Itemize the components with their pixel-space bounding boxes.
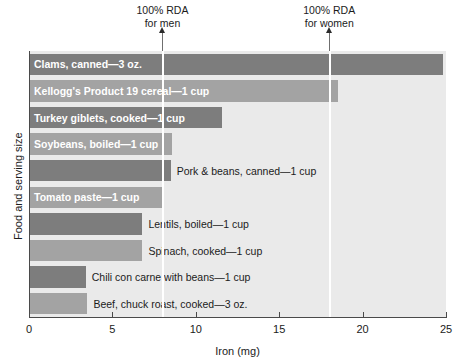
bar — [29, 266, 86, 287]
x-axis-title: Iron (mg) — [29, 345, 446, 357]
bar — [29, 160, 171, 181]
x-tick-label: 25 — [426, 323, 466, 335]
x-tick — [196, 312, 197, 318]
bar-label: Soybeans, boiled—1 cup — [34, 138, 158, 150]
x-tick — [446, 312, 447, 318]
x-tick-label: 5 — [92, 323, 132, 335]
arrow-head — [326, 27, 332, 33]
x-tick-label: 20 — [343, 323, 383, 335]
x-tick-label: 15 — [259, 323, 299, 335]
arrow-shaft — [329, 32, 330, 51]
bar-label: Kellogg's Product 19 cereal—1 cup — [34, 85, 209, 97]
rda-women-line1: 100% RDA — [269, 4, 389, 17]
arrow-shaft — [162, 32, 163, 51]
rda-men-line1: 100% RDA — [102, 4, 222, 17]
rda-reference-line — [329, 51, 331, 317]
y-axis-title: Food and serving size — [12, 132, 24, 240]
bar — [29, 213, 142, 234]
iron-content-bar-chart: 100% RDA for men 100% RDA for women Clam… — [0, 0, 476, 364]
x-tick — [363, 312, 364, 318]
bar-label: Chili con carne with beans—1 cup — [92, 271, 251, 283]
bar — [29, 293, 87, 314]
y-axis-line — [29, 51, 30, 318]
rda-men-annotation: 100% RDA for men — [102, 4, 222, 29]
bar — [29, 240, 142, 261]
bar-label: Pork & beans, canned—1 cup — [177, 165, 317, 177]
rda-reference-line — [162, 51, 164, 317]
rda-women-annotation: 100% RDA for women — [269, 4, 389, 29]
plot-area: Clams, canned—3 oz.Kellogg's Product 19 … — [29, 51, 446, 317]
x-tick — [112, 312, 113, 318]
x-tick-label: 0 — [9, 323, 49, 335]
x-axis-line — [29, 317, 447, 318]
x-tick — [279, 312, 280, 318]
arrow-head — [159, 27, 165, 33]
bar-label: Tomato paste—1 cup — [34, 191, 139, 203]
bar-label: Beef, chuck roast, cooked—3 oz. — [93, 298, 247, 310]
x-tick — [29, 312, 30, 318]
bar-label: Spinach, cooked—1 cup — [148, 245, 262, 257]
bar-label: Clams, canned—3 oz. — [34, 58, 142, 70]
x-tick-label: 10 — [176, 323, 216, 335]
